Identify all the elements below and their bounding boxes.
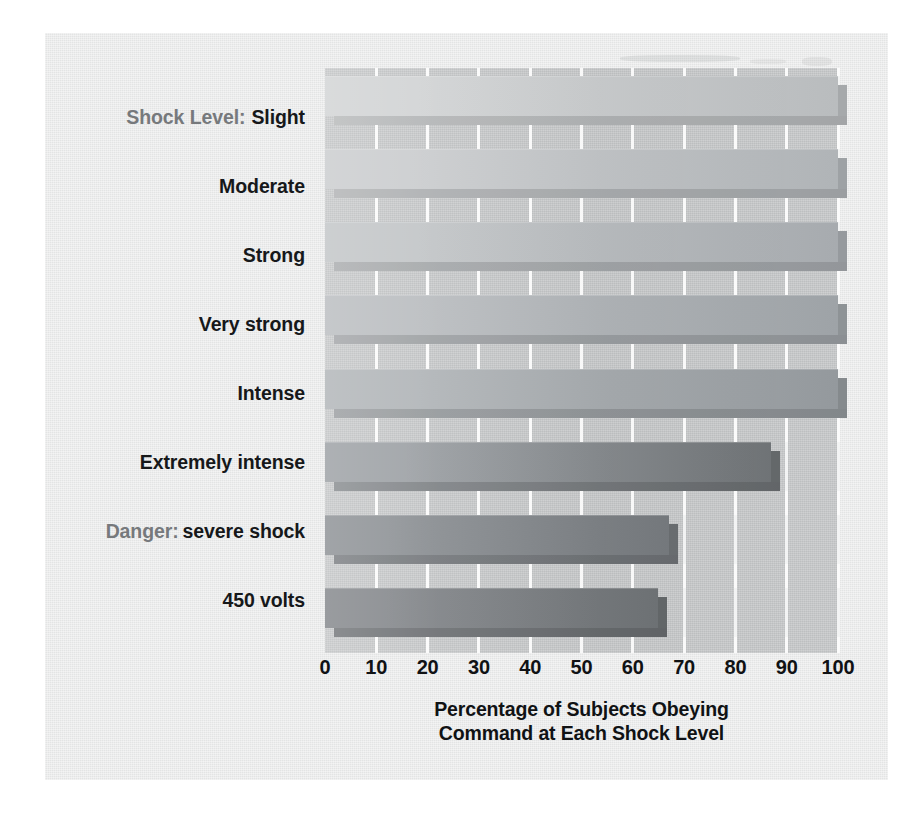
bar-face-4 bbox=[325, 369, 838, 409]
x-axis-tick-labels: 0102030405060708090100 bbox=[325, 656, 838, 686]
bar-face-1 bbox=[325, 149, 838, 189]
tick-stub-20-2 bbox=[426, 198, 429, 222]
tick-stub-80-4 bbox=[734, 344, 737, 368]
x-tick-label-80: 80 bbox=[724, 656, 746, 679]
tick-stub-50-0 bbox=[580, 68, 583, 76]
x-tick-label-10: 10 bbox=[365, 656, 387, 679]
tick-stub-100-3 bbox=[837, 271, 840, 295]
tick-stub-50-7 bbox=[580, 564, 583, 588]
tick-stub-90-5 bbox=[785, 418, 788, 442]
bar-bottom-3 bbox=[334, 335, 847, 344]
category-label-row-slight: Shock Level: Slight bbox=[45, 104, 325, 130]
bar-6 bbox=[325, 515, 678, 555]
screenshot-root: Shock Level: Slight Moderate Strong Very… bbox=[0, 0, 912, 816]
tick-stub-30-7 bbox=[477, 564, 480, 588]
tick-stub-50-6 bbox=[580, 491, 583, 515]
bar-bottom-7 bbox=[334, 628, 667, 637]
tick-stub-70-6 bbox=[683, 491, 686, 515]
bar-bottom-4 bbox=[334, 409, 847, 418]
category-label-row-moderate: Moderate bbox=[45, 173, 325, 199]
bar-7 bbox=[325, 588, 667, 628]
bar-face-7 bbox=[325, 588, 658, 628]
tick-stub-100-8 bbox=[837, 637, 840, 653]
tick-stub-90-6 bbox=[785, 491, 788, 515]
bar-4 bbox=[325, 369, 847, 409]
tick-stub-40-3 bbox=[529, 271, 532, 295]
tick-stub-90-2 bbox=[785, 198, 788, 222]
tick-stub-10-1 bbox=[375, 125, 378, 149]
tick-stub-10-0 bbox=[375, 68, 378, 76]
tick-stub-20-4 bbox=[426, 344, 429, 368]
category-label-severe-shock: severe shock bbox=[183, 520, 305, 543]
x-tick-label-40: 40 bbox=[519, 656, 541, 679]
tick-stub-40-0 bbox=[529, 68, 532, 76]
tick-stub-50-3 bbox=[580, 271, 583, 295]
bar-5 bbox=[325, 442, 780, 482]
bar-2 bbox=[325, 222, 847, 262]
tick-stub-20-3 bbox=[426, 271, 429, 295]
tick-stub-40-1 bbox=[529, 125, 532, 149]
tick-stub-20-0 bbox=[426, 68, 429, 76]
tick-stub-60-0 bbox=[631, 68, 634, 76]
tick-stub-20-6 bbox=[426, 491, 429, 515]
x-tick-label-100: 100 bbox=[822, 656, 855, 679]
bar-face-6 bbox=[325, 515, 669, 555]
tick-stub-20-1 bbox=[426, 125, 429, 149]
category-label-row-strong: Strong bbox=[45, 242, 325, 268]
tick-stub-60-8 bbox=[631, 637, 634, 653]
bar-bottom-5 bbox=[334, 482, 780, 491]
tick-stub-20-8 bbox=[426, 637, 429, 653]
tick-stub-30-4 bbox=[477, 344, 480, 368]
tick-stub-40-5 bbox=[529, 418, 532, 442]
tick-stub-60-2 bbox=[631, 198, 634, 222]
tick-stub-80-3 bbox=[734, 271, 737, 295]
tick-stub-90-0 bbox=[785, 68, 788, 76]
tick-stub-30-6 bbox=[477, 491, 480, 515]
tick-stub-60-4 bbox=[631, 344, 634, 368]
x-tick-label-20: 20 bbox=[417, 656, 439, 679]
print-scuff bbox=[802, 57, 832, 66]
tick-stub-40-8 bbox=[529, 637, 532, 653]
danger-prefix-label: Danger: bbox=[106, 520, 179, 543]
tick-stub-10-5 bbox=[375, 418, 378, 442]
tick-stub-30-2 bbox=[477, 198, 480, 222]
tick-stub-80-6 bbox=[734, 491, 737, 515]
tick-stub-100-0 bbox=[837, 68, 840, 76]
bar-3 bbox=[325, 295, 847, 335]
category-label-extremely-intense: Extremely intense bbox=[140, 451, 305, 474]
plot-area bbox=[325, 68, 838, 653]
tick-stub-40-4 bbox=[529, 344, 532, 368]
tick-stub-50-2 bbox=[580, 198, 583, 222]
x-axis-title-line-2: Command at Each Shock Level bbox=[325, 721, 838, 745]
bar-face-2 bbox=[325, 222, 838, 262]
category-label-row-danger-severe-shock: Danger: severe shock bbox=[45, 518, 325, 544]
tick-stub-100-2 bbox=[837, 198, 840, 222]
category-label-moderate: Moderate bbox=[219, 175, 305, 198]
tick-stub-100-5 bbox=[837, 418, 840, 442]
tick-stub-10-7 bbox=[375, 564, 378, 588]
x-tick-label-60: 60 bbox=[622, 656, 644, 679]
tick-stub-70-5 bbox=[683, 418, 686, 442]
category-label-strong: Strong bbox=[243, 244, 305, 267]
tick-stub-50-4 bbox=[580, 344, 583, 368]
tick-stub-100-7 bbox=[837, 564, 840, 588]
tick-stub-100-1 bbox=[837, 125, 840, 149]
tick-stub-40-2 bbox=[529, 198, 532, 222]
tick-stub-10-2 bbox=[375, 198, 378, 222]
category-label-450-volts: 450 volts bbox=[222, 589, 305, 612]
tick-stub-10-3 bbox=[375, 271, 378, 295]
tick-stub-20-5 bbox=[426, 418, 429, 442]
bar-bottom-1 bbox=[334, 189, 847, 198]
x-axis-title: Percentage of Subjects Obeying Command a… bbox=[325, 697, 838, 745]
tick-stub-80-7 bbox=[734, 564, 737, 588]
tick-stub-70-4 bbox=[683, 344, 686, 368]
tick-stub-10-4 bbox=[375, 344, 378, 368]
tick-stub-80-1 bbox=[734, 125, 737, 149]
category-label-very-strong: Very strong bbox=[199, 313, 305, 336]
tick-stub-100-6 bbox=[837, 491, 840, 515]
tick-stub-30-3 bbox=[477, 271, 480, 295]
tick-stub-60-1 bbox=[631, 125, 634, 149]
tick-stub-20-7 bbox=[426, 564, 429, 588]
tick-stub-90-1 bbox=[785, 125, 788, 149]
tick-stub-90-3 bbox=[785, 271, 788, 295]
